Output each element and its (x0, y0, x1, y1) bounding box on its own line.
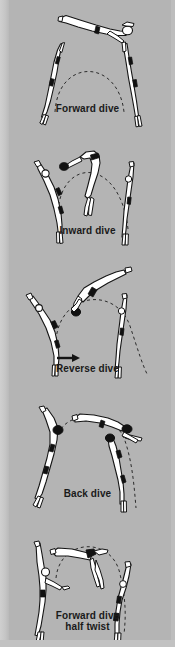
panel-forward-dive: Forward dive (0, 0, 175, 130)
panel-back-dive: Back dive (0, 388, 175, 516)
panel-inward-dive: Inward dive (0, 133, 175, 251)
caption-inward-dive: Inward dive (0, 225, 175, 236)
panel-forward-dive-half-twist: Forward dive half twist (0, 516, 175, 647)
panel-reverse-dive: Reverse dive (0, 258, 175, 386)
caption-line-2: half twist (0, 621, 175, 632)
caption-forward-dive: Forward dive (0, 103, 175, 114)
direction-arrow-icon (57, 354, 80, 362)
caption-line-1: Reverse dive (0, 363, 175, 374)
caption-line-1: Inward dive (0, 225, 175, 236)
diver-pose-right (122, 42, 142, 127)
caption-line-1: Forward dive (0, 103, 175, 114)
caption-reverse-dive: Reverse dive (0, 363, 175, 374)
caption-forward-dive-half-twist: Forward dive half twist (0, 610, 175, 632)
caption-line-1: Back dive (0, 488, 175, 499)
diver-pose-apex (50, 548, 108, 589)
caption-line-1: Forward dive (0, 610, 175, 621)
diver-pose-right (105, 434, 126, 512)
caption-back-dive: Back dive (0, 488, 175, 499)
diver-pose-apex (60, 151, 100, 216)
diving-types-figure: Forward dive (0, 0, 175, 647)
diver-pose-apex (58, 16, 134, 44)
